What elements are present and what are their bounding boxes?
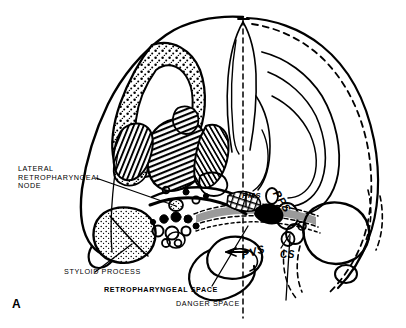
label-retropharyngeal-space: RETROPHARYNGEAL SPACE — [104, 286, 218, 295]
abbrev-pms: PMS — [242, 191, 261, 200]
label-lateral-retropharyngeal-node: LATERALRETROPHARYNGEALNODE — [18, 165, 101, 191]
anatomy-figure: LATERALRETROPHARYNGEALNODE STYLOID PROCE… — [0, 0, 406, 328]
abbrev-cs: CS — [280, 249, 295, 260]
label-danger-space: DANGER SPACE — [176, 300, 240, 309]
label-line-3: NODE — [18, 181, 41, 190]
anatomy-drawing — [0, 0, 406, 328]
panel-label: A — [12, 297, 21, 311]
label-styloid-process: STYLOID PROCESS — [64, 268, 141, 277]
